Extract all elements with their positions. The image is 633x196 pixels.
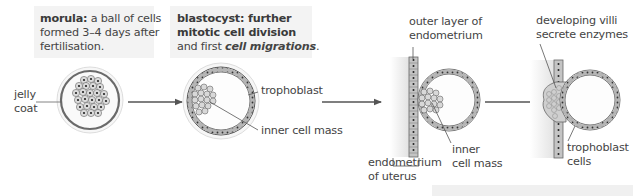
attachment-diagram (390, 47, 480, 166)
morula-diagram (36, 67, 123, 133)
trophoblast-cells-leader (568, 126, 575, 141)
blastocyst-diagram (183, 63, 259, 139)
endometrium-column (409, 57, 418, 157)
endometrium-bracket (393, 158, 419, 166)
implantation-diagram (530, 44, 620, 158)
